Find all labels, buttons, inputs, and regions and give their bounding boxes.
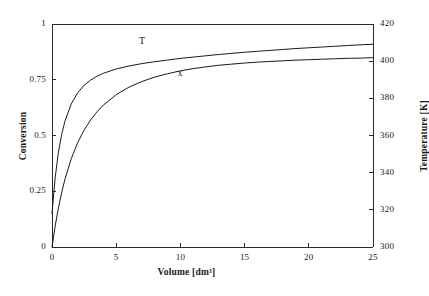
x-tick-label: 10 bbox=[166, 252, 194, 262]
curve-T bbox=[52, 44, 373, 213]
x-tick-label: 15 bbox=[231, 252, 259, 262]
y-tick-label-right: 300 bbox=[380, 241, 410, 251]
y-tick-label-right: 400 bbox=[380, 55, 410, 65]
y-tick-label-left: 1 bbox=[10, 18, 46, 28]
x-tick-label: 25 bbox=[359, 252, 387, 262]
x-tick-label: 20 bbox=[295, 252, 323, 262]
curve-annotation-T: T bbox=[139, 35, 145, 46]
y-tick-label-left: 0.75 bbox=[10, 74, 46, 84]
y-tick-label-right: 420 bbox=[380, 18, 410, 28]
y2-axis-title: Temperature [K] bbox=[419, 100, 429, 172]
curve-x bbox=[52, 58, 373, 247]
x-tick-label: 0 bbox=[38, 252, 66, 262]
x-tick-label: 5 bbox=[102, 252, 130, 262]
curve-annotation-x: x bbox=[177, 67, 182, 78]
y-tick-label-left: 0 bbox=[10, 241, 46, 251]
y-tick-label-right: 360 bbox=[380, 130, 410, 140]
y-axis-title: Conversion bbox=[18, 111, 28, 159]
y-tick-label-left: 0.25 bbox=[10, 185, 46, 195]
y-tick-label-right: 320 bbox=[380, 204, 410, 214]
y-tick-label-left: 0.5 bbox=[10, 130, 46, 140]
y-tick-label-right: 380 bbox=[380, 92, 410, 102]
x-axis-title: Volume [dm³] bbox=[0, 267, 373, 277]
y-tick-label-right: 340 bbox=[380, 167, 410, 177]
